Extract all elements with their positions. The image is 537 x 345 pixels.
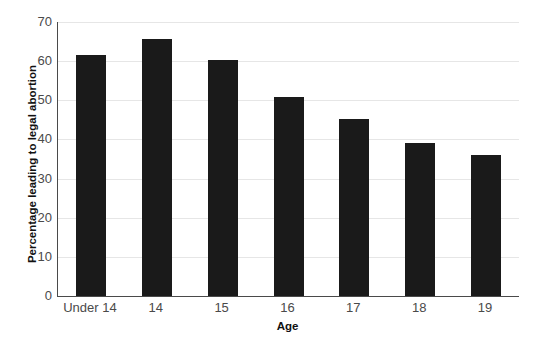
y-axis-tick-label: 40 <box>26 132 52 145</box>
x-axis-title: Age <box>57 320 518 332</box>
bar <box>405 143 435 296</box>
bar <box>339 119 369 296</box>
y-axis-tick-label: 50 <box>26 93 52 106</box>
bar <box>208 60 238 296</box>
y-axis-tick-label: 60 <box>26 54 52 67</box>
y-axis-tick-label: 10 <box>26 250 52 263</box>
bar <box>274 97 304 296</box>
x-axis-tick-label: 18 <box>386 300 452 316</box>
cropped-title-remnant <box>60 0 230 4</box>
bar <box>76 55 106 296</box>
x-axis-tick-labels: Under 14141516171819 <box>57 300 518 318</box>
x-axis-tick-label: Under 14 <box>57 300 123 316</box>
x-axis-tick-label: 17 <box>320 300 386 316</box>
y-axis-tick-labels: 010203040506070 <box>22 0 52 345</box>
bar <box>142 39 172 296</box>
plot-area <box>57 22 519 297</box>
x-axis-tick-label: 14 <box>123 300 189 316</box>
y-axis-tick-label: 20 <box>26 211 52 224</box>
x-axis-tick-label: 19 <box>452 300 518 316</box>
bar-chart: Percentage leading to legal abortion 010… <box>0 0 537 345</box>
x-axis-tick-label: 16 <box>255 300 321 316</box>
bars-layer <box>58 22 519 296</box>
y-axis-tick-label: 0 <box>26 289 52 302</box>
bar <box>471 155 501 296</box>
y-axis-tick-label: 70 <box>26 15 52 28</box>
y-axis-tick-label: 30 <box>26 172 52 185</box>
x-axis-tick-label: 15 <box>189 300 255 316</box>
